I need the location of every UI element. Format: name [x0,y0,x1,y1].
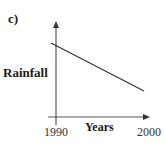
x-axis-label: Years [85,121,114,133]
x-tick-1990: 1990 [44,126,68,138]
x-axis-arrow-icon [143,114,150,120]
y-axis-label: Rainfall [3,66,48,79]
y-axis [53,21,59,125]
x-tick-2000: 2000 [137,126,161,138]
y-axis-arrow-icon [53,21,59,28]
rainfall-trend-line [51,43,144,91]
panel-label: c) [8,12,18,25]
